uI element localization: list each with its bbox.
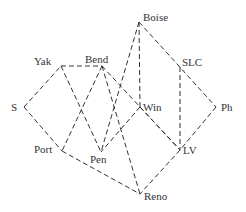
node-label-port: Port — [34, 143, 52, 155]
node-label-reno: Reno — [144, 190, 168, 202]
node-label-boise: Boise — [143, 11, 168, 23]
edge-boise-pen — [101, 22, 139, 152]
node-label-yak: Yak — [34, 55, 52, 67]
graph-svg: SYakBendBoiseSLCWinPhPortPenLVReno — [0, 0, 246, 212]
edge-boise-win — [139, 22, 140, 107]
graph-diagram: SYakBendBoiseSLCWinPhPortPenLVReno — [0, 0, 246, 212]
node-label-slc: SLC — [182, 56, 202, 68]
edge-yak-pen — [61, 66, 101, 152]
edge-bend-port — [62, 66, 102, 151]
node-label-lv: LV — [183, 144, 197, 156]
edge-lv-reno — [140, 150, 180, 194]
edge-boise-ph — [139, 22, 216, 107]
node-label-s: S — [11, 101, 17, 113]
node-label-bend: Bend — [85, 53, 109, 65]
edges-layer — [24, 22, 216, 194]
labels-layer: SYakBendBoiseSLCWinPhPortPenLVReno — [11, 11, 233, 202]
edge-win-lv — [140, 107, 180, 150]
node-label-win: Win — [143, 101, 162, 113]
node-label-pen: Pen — [90, 153, 107, 165]
edge-s-yak — [24, 66, 61, 107]
node-label-ph: Ph — [221, 101, 233, 113]
